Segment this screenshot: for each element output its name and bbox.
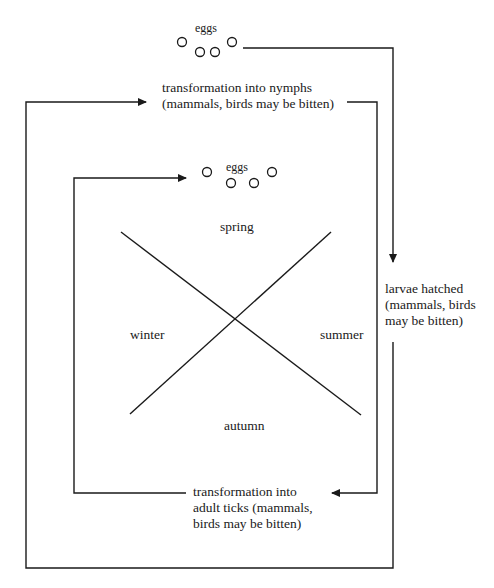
adults-label-line-2: adult ticks (mammals, — [193, 500, 313, 516]
larvae-label-line-1: larvae hatched — [385, 281, 476, 297]
season-cross-line-1 — [121, 232, 361, 415]
egg-circles-top — [178, 38, 237, 57]
eggs-inner-label: eggs — [226, 160, 248, 174]
larvae-label: larvae hatched (mammals, birds may be bi… — [385, 281, 476, 329]
adults-label-line-1: transformation into — [193, 484, 313, 500]
nymphs-label: transformation into nymphs (mammals, bir… — [162, 80, 334, 112]
season-summer: summer — [320, 327, 364, 343]
nymphs-label-line-1: transformation into nymphs — [162, 80, 334, 96]
larvae-label-line-2: (mammals, birds — [385, 297, 476, 313]
season-spring: spring — [220, 219, 254, 235]
season-winter: winter — [130, 327, 165, 343]
adults-label-line-3: birds may be bitten) — [193, 516, 313, 532]
eggs-top-label: eggs — [195, 21, 217, 35]
nymphs-label-line-2: (mammals, birds may be bitten) — [162, 96, 334, 112]
connector-nymphs-to-adults — [332, 102, 377, 493]
larvae-label-line-3: may be bitten) — [385, 313, 476, 329]
season-autumn: autumn — [224, 418, 265, 434]
season-cross-line-2 — [130, 232, 331, 414]
adults-label: transformation into adult ticks (mammals… — [193, 484, 313, 532]
